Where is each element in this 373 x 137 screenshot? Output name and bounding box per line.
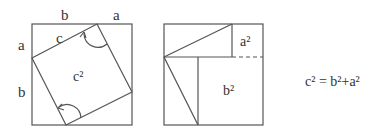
triangle-diagonal-top (164, 24, 232, 57)
label-top-b: b (61, 7, 69, 23)
rotation-arc-bottom (59, 104, 81, 118)
label-side-a: a (18, 37, 25, 53)
label-a-squared: a² (240, 34, 250, 49)
equation: c² = b²+a² (305, 74, 360, 89)
right-panel: a² b² (164, 24, 263, 125)
label-c-squared: c² (73, 69, 83, 84)
pythagoras-diagram: b a a b c c² a² b² c² = b²+a² (0, 0, 373, 137)
triangle-diagonal-bottom (164, 57, 198, 125)
left-panel: b a a b c c² (18, 7, 132, 125)
label-hyp-c: c (56, 30, 63, 46)
label-side-b: b (18, 84, 26, 100)
label-top-a: a (113, 7, 120, 23)
label-b-squared: b² (223, 83, 234, 98)
